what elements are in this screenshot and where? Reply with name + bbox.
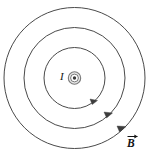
physics-figure: I B [0, 0, 149, 155]
middle-field-arrowhead [104, 112, 113, 118]
current-out-of-page-dot-icon [68, 72, 80, 84]
bfield-label: B [127, 138, 135, 150]
current-label: I [60, 71, 64, 82]
field-line-diagram [0, 0, 149, 155]
